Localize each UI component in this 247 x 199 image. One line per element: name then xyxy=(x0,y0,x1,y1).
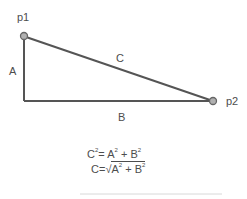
side-b-label: B xyxy=(118,112,125,123)
hypotenuse-formula: C=√A2 + B2 xyxy=(91,162,145,175)
side-a-label: A xyxy=(9,66,16,77)
exponent: 2 xyxy=(138,147,141,153)
side-c-line xyxy=(26,37,210,100)
formula-plus: + xyxy=(122,163,135,175)
formula-equals: = xyxy=(98,148,107,160)
formula-b: B xyxy=(135,163,142,175)
exponent: 2 xyxy=(142,162,145,168)
side-c-label: C xyxy=(116,53,124,64)
formula-b: B xyxy=(130,148,137,160)
point-p2-marker[interactable] xyxy=(210,98,217,105)
point-p2-label: p2 xyxy=(226,96,238,107)
formula-c: C xyxy=(87,148,95,160)
formula-plus: + xyxy=(118,148,131,160)
radicand: A2 + B2 xyxy=(111,161,145,175)
point-p1-marker[interactable] xyxy=(21,33,28,40)
formula-c: C xyxy=(91,163,99,175)
formula-a: A xyxy=(111,163,118,175)
pythagorean-formula: C2= A2 + B2 xyxy=(87,147,141,160)
point-p1-label: p1 xyxy=(17,12,29,23)
formula-a: A xyxy=(107,148,114,160)
